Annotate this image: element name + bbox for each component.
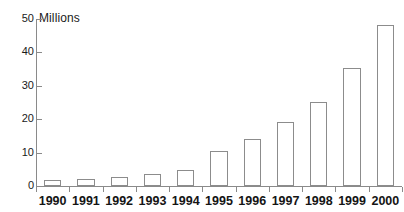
- x-tick-mark: [402, 187, 403, 192]
- x-tick-mark: [36, 187, 37, 192]
- y-axis-line: [36, 19, 37, 187]
- y-tick: 10: [0, 153, 44, 154]
- x-tick-label: 2000: [369, 194, 402, 208]
- y-tick-mark: [37, 19, 42, 20]
- x-tick-mark: [202, 187, 203, 192]
- x-tick-label: 1998: [302, 194, 335, 208]
- y-tick-mark: [37, 186, 42, 187]
- bar: [244, 139, 261, 186]
- x-tick-label: 1999: [335, 194, 368, 208]
- bar: [77, 179, 94, 186]
- bar: [177, 170, 194, 186]
- y-tick-label: 10: [22, 146, 34, 158]
- y-tick-label: 20: [22, 112, 34, 124]
- y-tick-label: 30: [22, 79, 34, 91]
- y-axis-unit-label: Millions: [39, 11, 80, 25]
- x-tick-mark: [169, 187, 170, 192]
- x-tick-label: 1993: [136, 194, 169, 208]
- y-tick-mark: [37, 86, 42, 87]
- x-tick-label: 1992: [103, 194, 136, 208]
- y-tick: 40: [0, 52, 44, 53]
- bar: [277, 122, 294, 186]
- y-tick: 30: [0, 86, 44, 87]
- x-tick-label: 1990: [36, 194, 69, 208]
- x-tick-label: 1995: [202, 194, 235, 208]
- x-tick-mark: [136, 187, 137, 192]
- bar-chart: Millions 50403020100 1990199119921993199…: [0, 0, 404, 212]
- bar: [210, 151, 227, 186]
- y-tick-label: 50: [22, 12, 34, 24]
- y-tick: 20: [0, 119, 44, 120]
- bar: [377, 25, 394, 186]
- y-tick: 50: [0, 19, 44, 20]
- bar: [310, 102, 327, 186]
- x-axis-line: [36, 186, 402, 187]
- y-tick-label: 40: [22, 45, 34, 57]
- x-tick-label: 1997: [269, 194, 302, 208]
- x-tick-mark: [103, 187, 104, 192]
- bar: [144, 174, 161, 186]
- y-tick-mark: [37, 52, 42, 53]
- y-tick: 0: [0, 186, 44, 187]
- bar: [111, 177, 128, 186]
- x-tick-mark: [302, 187, 303, 192]
- bar: [343, 68, 360, 186]
- x-tick-mark: [269, 187, 270, 192]
- y-tick-mark: [37, 119, 42, 120]
- x-tick-label: 1991: [69, 194, 102, 208]
- x-tick-mark: [236, 187, 237, 192]
- y-tick-mark: [37, 153, 42, 154]
- bar: [44, 180, 61, 186]
- x-tick-label: 1996: [236, 194, 269, 208]
- x-tick-mark: [369, 187, 370, 192]
- y-tick-label: 0: [28, 179, 34, 191]
- x-tick-mark: [335, 187, 336, 192]
- x-tick-label: 1994: [169, 194, 202, 208]
- x-tick-mark: [69, 187, 70, 192]
